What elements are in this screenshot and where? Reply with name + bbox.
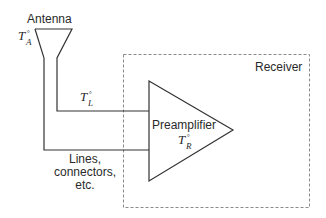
antenna-temperature: T°A bbox=[18, 29, 25, 43]
noise-temperature-diagram: Antenna T°A T°L Lines, connectors, etc. … bbox=[0, 0, 326, 218]
preamplifier-temperature: T°R bbox=[178, 133, 185, 147]
receiver-label: Receiver bbox=[255, 61, 302, 74]
lines-connectors-caption: Lines, connectors, etc. bbox=[50, 153, 120, 192]
diagram-canvas bbox=[0, 0, 326, 218]
caption-line-3: etc. bbox=[50, 179, 120, 192]
antenna-label: Antenna bbox=[27, 13, 72, 26]
antenna-outer-line bbox=[35, 29, 149, 150]
preamplifier-label: Preamplifier bbox=[152, 119, 216, 132]
line-temperature: T°L bbox=[80, 90, 87, 104]
